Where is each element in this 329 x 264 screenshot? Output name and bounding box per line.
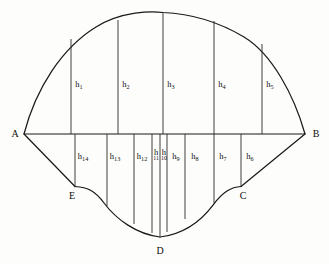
ordinate-label-h8: h8 bbox=[191, 152, 198, 161]
ordinate-label-h10: h 10 bbox=[161, 148, 167, 161]
point-label-b: B bbox=[313, 129, 320, 139]
ordinate-label-h11: h 11 bbox=[153, 148, 159, 161]
point-label-d: D bbox=[156, 246, 163, 256]
ordinate-label-h9: h9 bbox=[172, 152, 179, 161]
upper-arc-curve bbox=[24, 12, 305, 134]
ordinate-label-h4: h4 bbox=[218, 80, 225, 89]
ordinate-label-h12: h12 bbox=[137, 152, 147, 161]
ordinate-label-h1: h1 bbox=[75, 80, 82, 89]
ordinate-label-h7: h7 bbox=[219, 152, 226, 161]
ordinate-label-h13: h13 bbox=[110, 152, 120, 161]
keel-curve-ed bbox=[75, 187, 160, 238]
point-label-a: A bbox=[11, 129, 18, 139]
left-flank-ae bbox=[24, 134, 75, 187]
point-label-e: E bbox=[69, 191, 75, 201]
ordinate-label-h3: h3 bbox=[167, 80, 174, 89]
ordinate-label-h2: h2 bbox=[122, 80, 129, 89]
section-ordinate-diagram: h1 h2 h3 h4 h5 h14 h13 h12 h 11 h 10 h9 … bbox=[0, 0, 329, 264]
ordinate-label-h5: h5 bbox=[266, 80, 273, 89]
ordinate-label-h6: h6 bbox=[246, 152, 253, 161]
keel-curve-dc bbox=[160, 187, 241, 238]
figure-svg bbox=[0, 0, 329, 264]
point-label-c: C bbox=[240, 191, 247, 201]
ordinate-label-h14: h14 bbox=[78, 152, 88, 161]
